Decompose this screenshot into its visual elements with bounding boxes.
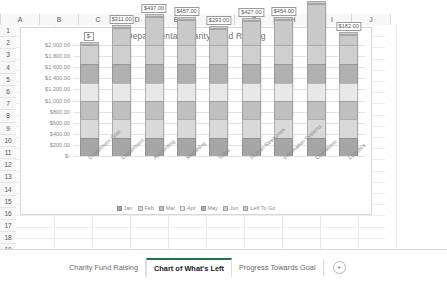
chart-bar-segment-apr[interactable] — [177, 83, 196, 101]
chart-bar-segment-apr[interactable] — [242, 83, 261, 101]
column-header-B[interactable]: B — [40, 14, 79, 25]
sheet-tab-charity-fund-raising[interactable]: Charity Fund Raising — [62, 259, 146, 276]
chart-bar-segment-may[interactable] — [112, 64, 131, 82]
row-header-18[interactable]: 18 — [0, 232, 16, 244]
row-header-6[interactable]: 6 — [0, 86, 16, 98]
chart-legend-label: Jun — [230, 205, 239, 211]
chart-bar-segment-mar[interactable] — [145, 101, 164, 119]
chart-bar-segment-left-to-go[interactable] — [177, 20, 196, 45]
chart-bar[interactable]: $427.00 — [242, 21, 261, 156]
chart-bar-segment-mar[interactable] — [274, 101, 293, 119]
chart-bar-segment-jun[interactable] — [145, 45, 164, 64]
chart-bar-segment-left-to-go[interactable] — [112, 28, 131, 45]
row-header-2[interactable]: 2 — [0, 37, 16, 49]
chart-bar-segment-mar[interactable] — [307, 101, 326, 119]
chart-bar-segment-jun[interactable] — [209, 45, 228, 64]
chart-bar[interactable]: $- — [80, 45, 99, 156]
chart-object[interactable]: Departmental Charity Fund Raising $2,000… — [20, 27, 372, 215]
row-header-8[interactable]: 8 — [0, 110, 16, 122]
row-header-5[interactable]: 5 — [0, 74, 16, 86]
chart-legend-item: May — [201, 205, 218, 211]
row-header-7[interactable]: 7 — [0, 98, 16, 110]
sheet-tab-bar: Charity Fund RaisingChart of What's Left… — [0, 249, 447, 285]
chart-bar-segment-feb[interactable] — [339, 119, 358, 137]
chart-bar-group[interactable]: $311.00 — [112, 45, 131, 156]
row-header-17[interactable]: 17 — [0, 220, 16, 232]
chart-bar-segment-may[interactable] — [339, 64, 358, 82]
row-header-14[interactable]: 14 — [0, 183, 16, 195]
chart-bar-segment-apr[interactable] — [339, 83, 358, 101]
chart-bar-segment-jun[interactable] — [339, 45, 358, 64]
chart-bar-segment-jun[interactable] — [307, 45, 326, 64]
row-header-4[interactable]: 4 — [0, 62, 16, 74]
chart-data-label: $311.00 — [109, 15, 134, 24]
row-header-16[interactable]: 16 — [0, 208, 16, 220]
row-header-1[interactable]: 1 — [0, 25, 16, 37]
row-header-12[interactable]: 12 — [0, 159, 16, 171]
chart-bar-segment-left-to-go[interactable] — [145, 17, 164, 45]
chart-bar-segment-may[interactable] — [209, 64, 228, 82]
row-header-9[interactable]: 9 — [0, 123, 16, 135]
chart-bar-segment-may[interactable] — [274, 64, 293, 82]
chart-bar-segment-feb[interactable] — [145, 119, 164, 137]
chart-bar[interactable]: $293.00 — [209, 29, 228, 156]
chart-bar-segment-left-to-go[interactable] — [307, 4, 326, 45]
chart-bar-segment-apr[interactable] — [209, 83, 228, 101]
add-sheet-plus-circle-icon[interactable]: + — [333, 261, 346, 274]
chart-bar-segment-feb[interactable] — [177, 119, 196, 137]
chart-bar-segment-apr[interactable] — [145, 83, 164, 101]
chart-bar-group[interactable]: $293.00 — [209, 45, 228, 156]
chart-bar-segment-apr[interactable] — [112, 83, 131, 101]
chart-bar-segment-may[interactable] — [145, 64, 164, 82]
chart-bar-group[interactable]: $427.00 — [242, 45, 261, 156]
chart-bar-segment-may[interactable] — [177, 64, 196, 82]
chart-bar-segment-jun[interactable] — [242, 45, 261, 64]
chart-bar-segment-apr[interactable] — [80, 83, 99, 101]
chart-bar-segment-jun[interactable] — [112, 45, 131, 64]
chart-bar-segment-mar[interactable] — [339, 101, 358, 119]
chart-bar[interactable]: $182.00 — [339, 35, 358, 156]
chart-bar-segment-feb[interactable] — [242, 119, 261, 137]
row-header-15[interactable]: 15 — [0, 196, 16, 208]
chart-bar-segment-left-to-go[interactable] — [274, 20, 293, 45]
chart-bar-segment-jun[interactable] — [80, 45, 99, 64]
row-header-3[interactable]: 3 — [0, 49, 16, 61]
chart-bar-segment-jun[interactable] — [177, 45, 196, 64]
sheet-tab-chart-of-what-s-left[interactable]: Chart of What's Left — [146, 258, 232, 277]
chart-legend-item: Feb — [138, 205, 154, 211]
chart-bar-segment-mar[interactable] — [177, 101, 196, 119]
chart-bar-segment-apr[interactable] — [274, 83, 293, 101]
column-header-A[interactable]: A — [1, 14, 40, 25]
chart-bar-group[interactable]: $454.00 — [274, 45, 293, 156]
chart-bar[interactable]: $497.00 — [145, 17, 164, 156]
row-header-10[interactable]: 10 — [0, 135, 16, 147]
chart-y-tick-label: $400.00 — [50, 131, 70, 137]
chart-bar[interactable]: $457.00 — [177, 20, 196, 156]
chart-bar-group[interactable]: $497.00 — [145, 45, 164, 156]
chart-bar-segment-mar[interactable] — [242, 101, 261, 119]
select-all-triangle-icon[interactable] — [0, 14, 1, 25]
chart-bar-group[interactable]: $182.00 — [339, 45, 358, 156]
chart-bar-segment-left-to-go[interactable] — [339, 35, 358, 45]
chart-bar-group[interactable]: $457.00 — [177, 45, 196, 156]
chart-bar-segment-left-to-go[interactable] — [242, 21, 261, 45]
chart-bar-segment-may[interactable] — [242, 64, 261, 82]
chart-bar-segment-mar[interactable] — [209, 101, 228, 119]
chart-bar-segment-may[interactable] — [80, 64, 99, 82]
chart-bar-group[interactable]: $740.00 — [307, 45, 326, 156]
chart-bar-segment-may[interactable] — [307, 64, 326, 82]
chart-bar-segment-jun[interactable] — [274, 45, 293, 64]
chart-bar-segment-apr[interactable] — [307, 83, 326, 101]
chart-legend-swatch — [138, 206, 143, 211]
chart-bar-segment-feb[interactable] — [209, 119, 228, 137]
chart-bar-segment-mar[interactable] — [80, 101, 99, 119]
chart-bar-group[interactable]: $- — [80, 45, 99, 156]
sheet-tab-progress-towards-goal[interactable]: Progress Towards Goal — [232, 259, 324, 276]
chart-bar-segment-mar[interactable] — [112, 101, 131, 119]
row-header-13[interactable]: 13 — [0, 171, 16, 183]
chart-data-label: $182.00 — [336, 22, 361, 31]
chart-y-tick-label: $200.00 — [50, 142, 70, 148]
chart-bar-segment-left-to-go[interactable] — [209, 29, 228, 45]
row-header-11[interactable]: 11 — [0, 147, 16, 159]
chart-bar-segment-feb[interactable] — [80, 119, 99, 137]
